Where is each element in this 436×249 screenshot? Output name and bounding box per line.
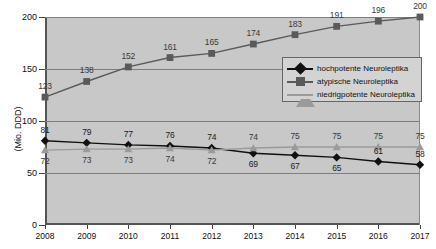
x-tick-label-2015: 2015 (327, 231, 346, 241)
data-label-square-2014: 183 (288, 19, 302, 29)
y-tick-label-50: 50 (27, 168, 37, 178)
legend-item-niedrigpotente: niedrigpotente Neuroleptika (287, 88, 417, 101)
x-tick-label-2009: 2009 (77, 231, 96, 241)
neuroleptika-line-chart: 050100150200 200820092010201120122013201… (0, 0, 436, 249)
x-tick-mark-2013 (253, 225, 254, 229)
x-tick-mark-2015 (337, 225, 338, 229)
data-label-triangle-2017: 75 (415, 131, 424, 141)
legend-marker-square-icon (287, 76, 313, 87)
y-tick-mark-100 (39, 121, 45, 122)
data-label-triangle-2015: 75 (332, 131, 341, 141)
data-label-diamond-2010: 77 (124, 129, 133, 139)
x-tick-mark-2016 (378, 225, 379, 229)
x-tick-label-2014: 2014 (286, 231, 305, 241)
x-tick-label-2016: 2016 (369, 231, 388, 241)
x-tick-mark-2011 (170, 225, 171, 229)
data-label-triangle-2008: 72 (40, 156, 49, 166)
data-label-square-2013: 174 (247, 28, 261, 38)
data-label-triangle-2010: 73 (124, 155, 133, 165)
data-label-triangle-2012: 72 (207, 156, 216, 166)
x-tick-label-2011: 2011 (161, 231, 179, 241)
data-label-triangle-2011: 74 (165, 154, 174, 164)
data-label-square-2015: 191 (330, 10, 344, 20)
legend-label-hochpotente: hochpotente Neuroleptika (317, 64, 408, 73)
data-label-square-2010: 152 (122, 51, 136, 61)
data-label-diamond-2008: 81 (40, 125, 49, 135)
data-label-diamond-2015: 65 (332, 163, 341, 173)
x-tick-mark-2010 (128, 225, 129, 229)
data-label-diamond-2011: 76 (165, 130, 174, 140)
data-label-triangle-2013: 74 (249, 132, 258, 142)
x-tick-mark-2017 (420, 225, 421, 229)
y-tick-label-0: 0 (32, 220, 37, 230)
y-tick-label-100: 100 (22, 116, 37, 126)
x-tick-mark-2008 (45, 225, 46, 229)
y-tick-mark-50 (39, 173, 45, 174)
y-axis-title: (Mio. DDD) (13, 89, 23, 169)
x-tick-mark-2009 (87, 225, 88, 229)
data-label-square-2008: 123 (38, 81, 52, 91)
legend-marker-triangle-icon (287, 89, 313, 100)
data-label-square-2012: 165 (205, 37, 219, 47)
x-tick-mark-2014 (295, 225, 296, 229)
data-label-diamond-2017: 58 (415, 149, 424, 159)
x-tick-label-2017: 2017 (411, 231, 430, 241)
legend-item-atypische: atypische Neuroleptika (287, 75, 417, 88)
y-tick-label-200: 200 (22, 12, 37, 22)
data-label-diamond-2014: 67 (290, 161, 299, 171)
x-tick-label-2010: 2010 (119, 231, 138, 241)
data-label-square-2016: 196 (372, 5, 386, 15)
data-label-diamond-2016: 61 (374, 146, 383, 156)
data-label-square-2017: 200 (413, 1, 427, 11)
data-label-triangle-2016: 75 (374, 131, 383, 141)
gridline-50 (45, 173, 420, 174)
chart-legend: hochpotente Neuroleptika atypische Neuro… (282, 57, 422, 102)
x-tick-label-2012: 2012 (202, 231, 221, 241)
data-label-triangle-2014: 75 (290, 131, 299, 141)
data-label-square-2011: 161 (163, 42, 177, 52)
data-label-diamond-2012: 74 (207, 132, 216, 142)
data-label-triangle-2009: 73 (82, 155, 91, 165)
y-tick-mark-150 (39, 69, 45, 70)
data-label-diamond-2009: 79 (82, 127, 91, 137)
legend-label-niedrigpotente: niedrigpotente Neuroleptika (317, 90, 415, 99)
gridline-100 (45, 121, 420, 122)
gridline-200 (45, 17, 420, 18)
data-label-diamond-2013: 69 (249, 159, 258, 169)
x-tick-label-2013: 2013 (244, 231, 263, 241)
legend-item-hochpotente: hochpotente Neuroleptika (287, 62, 417, 75)
legend-marker-diamond-icon (287, 63, 313, 74)
y-tick-label-150: 150 (22, 64, 37, 74)
data-label-square-2009: 138 (80, 65, 94, 75)
x-tick-label-2008: 2008 (36, 231, 55, 241)
legend-label-atypische: atypische Neuroleptika (317, 77, 398, 86)
x-tick-mark-2012 (212, 225, 213, 229)
y-tick-mark-200 (39, 17, 45, 18)
